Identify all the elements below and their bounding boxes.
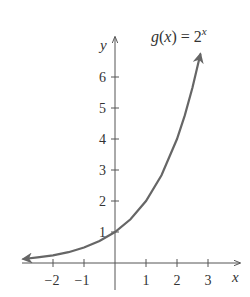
y-tick-label: 5 xyxy=(99,101,106,116)
function-variable: x xyxy=(163,28,171,45)
x-tick-label: −1 xyxy=(75,273,90,288)
x-tick-label: −2 xyxy=(45,273,60,288)
exponential-graph: −2 −1 1 2 3 1 2 3 4 5 6 x y g(x) = 2x xyxy=(0,0,250,297)
y-tick-label: 3 xyxy=(99,163,106,178)
x-tick-label: 1 xyxy=(143,273,150,288)
exponential-curve xyxy=(24,54,201,259)
y-tick-labels: 1 2 3 4 5 6 xyxy=(99,70,106,240)
y-tick-label: 4 xyxy=(99,132,106,147)
y-axis-label: y xyxy=(98,37,107,53)
x-tick-label: 2 xyxy=(174,273,181,288)
y-tick-label: 6 xyxy=(99,70,106,85)
x-axis-label: x xyxy=(231,269,239,285)
x-tick-labels: −2 −1 1 2 3 xyxy=(45,273,212,288)
exponent: x xyxy=(201,25,207,37)
y-tick-label: 2 xyxy=(99,194,106,209)
x-tick-label: 3 xyxy=(205,273,212,288)
equals-base: = 2 xyxy=(177,28,202,45)
function-name: g xyxy=(151,28,159,46)
function-label: g(x) = 2x xyxy=(151,25,207,46)
